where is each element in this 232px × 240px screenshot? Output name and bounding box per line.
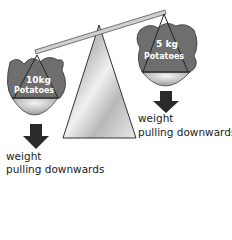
right-sack-content: Potatoes	[144, 50, 184, 63]
left-pan	[12, 98, 58, 115]
right-weight-label-line2: pulling downwards	[138, 126, 232, 139]
left-down-arrow-icon	[23, 124, 49, 149]
left-weight-label-line1: weight	[6, 150, 41, 163]
left-weight-label-line2: pulling downwards	[6, 163, 104, 176]
right-weight-label-line1: weight	[138, 112, 173, 125]
right-pan	[142, 72, 190, 86]
left-sack-content: Potatoes	[14, 84, 54, 97]
right-down-arrow-icon	[153, 91, 179, 113]
